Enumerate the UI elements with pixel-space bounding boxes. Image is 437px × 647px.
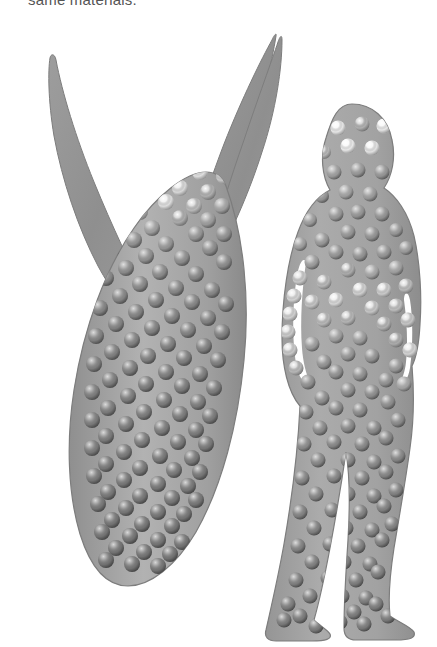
kernel-shading [389, 483, 404, 498]
kernel-shading [341, 311, 356, 326]
kernel-shading [144, 320, 160, 336]
kernel-shading [176, 350, 192, 366]
kernel-shading [179, 111, 193, 125]
kernel-shading [138, 248, 154, 264]
kernel-shading [140, 348, 156, 364]
kernel-shading [391, 449, 406, 464]
kernel-shading [341, 487, 356, 502]
kernel-shading [351, 163, 366, 178]
kernel-shading [341, 347, 356, 362]
kernel-shading [381, 395, 396, 410]
kernel-shading [150, 504, 166, 520]
kernel-shading [216, 226, 232, 242]
kernel-shading [200, 212, 216, 228]
kernel-shading [116, 472, 132, 488]
kernel-shading [293, 505, 308, 520]
kernel-shading [337, 555, 352, 570]
kernel-shading [178, 144, 194, 160]
kernel-shading [152, 448, 168, 464]
kernel-shading [152, 264, 168, 280]
kernel-shading [170, 434, 186, 450]
kernel-shading [216, 254, 232, 270]
kernel-shading [329, 293, 344, 308]
kernel-shading [365, 349, 380, 364]
kernel-sphere [179, 111, 193, 125]
kernel-shading [184, 450, 200, 466]
kernel-shading [341, 139, 356, 154]
kernel-shading [315, 233, 330, 248]
kernel-shading [134, 516, 150, 532]
kernel-shading [136, 544, 152, 560]
kernel-shading [164, 308, 180, 324]
kernel-shading [218, 296, 234, 312]
kernel-shading [132, 276, 148, 292]
kernel-shading [321, 571, 336, 586]
kernel-shading [351, 539, 366, 554]
kernel-shading [303, 589, 318, 604]
kernel-shading [331, 121, 346, 136]
kernel-shading [379, 465, 394, 480]
kernel-shading [291, 539, 306, 554]
kernel-shading [144, 220, 160, 236]
kernel-shading [133, 165, 148, 180]
kernel-shading [329, 329, 344, 344]
corn-cob-group [49, 34, 282, 586]
kernel-shading [84, 412, 100, 428]
kernel-shading [118, 416, 134, 432]
kernel-shading [144, 178, 160, 194]
kernel-shading [112, 288, 128, 304]
kernel-shading [281, 597, 296, 612]
kernel-shading [132, 488, 148, 504]
kernel-shading [143, 145, 158, 160]
kernel-shading [341, 419, 356, 434]
kernel-shading [389, 299, 404, 314]
kernel-shading [190, 394, 206, 410]
kernel-shading [341, 263, 356, 278]
illustration-stage [0, 0, 437, 647]
kernel-shading [327, 469, 342, 484]
kernel-shading [104, 344, 120, 360]
kernel-sphere [143, 145, 158, 160]
kernel-sphere [144, 178, 160, 194]
kernel-shading [188, 422, 204, 438]
kernel-shading [176, 506, 192, 522]
kernel-shading [158, 160, 174, 176]
kernel-shading [283, 307, 298, 322]
kernel-shading [365, 141, 380, 156]
kernel-shading [113, 215, 128, 230]
kernel-shading [172, 180, 188, 196]
kernel-shading [98, 428, 114, 444]
kernel-shading [375, 533, 390, 548]
kernel-shading [299, 405, 314, 420]
kernel-shading [118, 260, 134, 276]
kernel-shading [210, 352, 226, 368]
kernel-shading [150, 532, 166, 548]
kernel-shading [305, 555, 320, 570]
kernel-shading [353, 403, 368, 418]
kernel-shading [192, 366, 208, 382]
kernel-shading [379, 431, 394, 446]
kernel-shading [341, 225, 356, 240]
kernel-shading [122, 528, 138, 544]
kernel-shading [349, 573, 364, 588]
kernel-sphere [198, 124, 212, 138]
kernel-shading [365, 227, 380, 242]
kernel-shading [333, 615, 348, 630]
kernel-shading [317, 275, 332, 290]
kernel-shading [188, 226, 204, 242]
kernel-shading [369, 597, 384, 612]
kernel-shading [389, 359, 404, 374]
kernel-shading [389, 223, 403, 237]
kernel-shading [357, 617, 372, 632]
kernel-shading [375, 207, 390, 222]
kernel-shading [204, 282, 220, 298]
kernel-shading [305, 255, 320, 270]
kernel-shading [309, 487, 324, 502]
kernel-shading [301, 375, 316, 390]
kernel-shading [329, 365, 344, 380]
kernel-shading [161, 129, 175, 143]
kernel-shading [116, 444, 132, 460]
kernel-shading [121, 189, 136, 204]
kernel-shading [138, 376, 154, 392]
kernel-shading [174, 250, 190, 266]
